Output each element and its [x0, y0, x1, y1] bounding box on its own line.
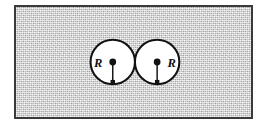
right-circle-radius-label: R: [166, 56, 175, 70]
left-circle-group: R: [91, 40, 135, 85]
two-tangent-circles-diagram: R R: [16, 7, 251, 117]
right-circle-center-dot: [154, 59, 161, 66]
left-circle-center-dot: [109, 59, 116, 66]
left-circle-radius-endpoint-tick: [111, 80, 115, 84]
shaded-region-plate: R R: [14, 5, 253, 119]
figure-root: R R: [0, 0, 269, 125]
right-circle-group: R: [135, 40, 179, 85]
right-circle-radius-endpoint-tick: [155, 80, 159, 84]
left-circle-radius-label: R: [93, 56, 102, 70]
